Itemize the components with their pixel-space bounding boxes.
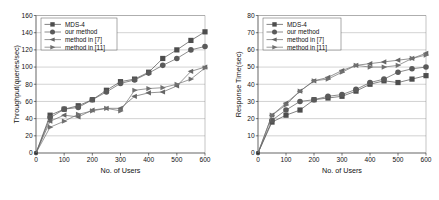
- series-3-marker-9: [381, 59, 387, 64]
- series-1-marker-12: [202, 29, 207, 34]
- series-4-marker-8: [146, 86, 152, 91]
- series-4-marker-11: [410, 56, 416, 61]
- series-2-marker-5: [104, 89, 110, 95]
- series-line-1: [258, 76, 426, 153]
- series-2-marker-12: [423, 64, 429, 70]
- ytick-label-0: 0: [29, 149, 33, 156]
- series-3: [258, 51, 428, 153]
- series-2-marker-5: [325, 93, 331, 99]
- xtick-label-200: 200: [308, 156, 319, 163]
- xtick-label-200: 200: [87, 156, 98, 163]
- series-2-marker-2: [283, 107, 289, 113]
- series-1-marker-12: [423, 73, 428, 78]
- series-2-marker-10: [174, 56, 180, 62]
- xtick-label-0: 0: [34, 156, 38, 163]
- series-4-marker-4: [312, 78, 318, 83]
- legend-label-1: MDS-4: [65, 21, 85, 28]
- xtick-label-100: 100: [59, 156, 70, 163]
- series-3-marker-2: [61, 113, 67, 118]
- series-2-marker-8: [146, 70, 152, 76]
- xtick-label-0: 0: [256, 156, 260, 163]
- series-line-2: [36, 46, 205, 153]
- series-2-marker-9: [160, 63, 166, 69]
- series-3-marker-11: [188, 69, 194, 74]
- legend: MDS-4our methodmethod in [7]method in [1…: [263, 18, 341, 52]
- y-axis-title: Throughput(queries/sec): [12, 45, 21, 123]
- series-2-marker-8: [367, 80, 373, 86]
- legend-label-2: our method: [65, 28, 98, 35]
- ytick-label-40: 40: [247, 81, 255, 88]
- ytick-label-140: 140: [22, 29, 33, 36]
- series-3-marker-9: [160, 89, 166, 94]
- series-2-marker-3: [75, 105, 81, 111]
- xtick-label-400: 400: [143, 156, 154, 163]
- xtick-label-500: 500: [392, 156, 403, 163]
- series-2-marker-10: [395, 69, 401, 75]
- ytick-label-50: 50: [247, 63, 255, 70]
- legend-marker-1: [50, 22, 54, 26]
- series-2-marker-3: [297, 99, 303, 105]
- xtick-label-500: 500: [171, 156, 182, 163]
- series-2-marker-9: [381, 76, 387, 82]
- legend: MDS-4our methodmethod in [7]method in [1…: [41, 18, 117, 52]
- ytick-label-160: 160: [22, 12, 33, 19]
- series-4-marker-1: [48, 125, 54, 130]
- series-2-marker-4: [90, 97, 96, 103]
- response-time-chart-svg: 010203040506070800100200300400500600No. …: [219, 0, 439, 200]
- ytick-label-20: 20: [247, 115, 255, 122]
- ytick-label-80: 80: [247, 12, 255, 19]
- series-group: [256, 51, 429, 155]
- series-4-marker-7: [132, 88, 138, 93]
- series-2-marker-12: [202, 44, 208, 50]
- series-1-marker-9: [160, 56, 165, 61]
- ytick-label-10: 10: [247, 132, 255, 139]
- legend-label-1: MDS-4: [287, 21, 307, 28]
- series-2-marker-6: [118, 81, 124, 87]
- series-4-marker-2: [62, 119, 68, 124]
- ytick-label-80: 80: [25, 81, 33, 88]
- series-2-marker-7: [353, 87, 359, 93]
- series-1-marker-10: [174, 47, 179, 52]
- ytick-label-60: 60: [25, 98, 33, 105]
- ytick-label-120: 120: [22, 46, 33, 53]
- y-axis-title: Response Time(sec): [234, 51, 243, 117]
- series-2: [258, 64, 429, 153]
- ytick-label-20: 20: [25, 132, 33, 139]
- series-4-marker-9: [160, 85, 166, 90]
- series-1-marker-2: [283, 113, 288, 118]
- xtick-label-600: 600: [199, 156, 210, 163]
- series-3-marker-10: [395, 58, 401, 63]
- series-4-marker-5: [104, 106, 110, 111]
- ytick-label-0: 0: [251, 149, 255, 156]
- series-2-marker-2: [61, 106, 67, 112]
- legend-marker-1: [272, 22, 276, 26]
- response-time-chart-panel: 010203040506070800100200300400500600No. …: [219, 0, 439, 200]
- legend-label-4: method in [11]: [65, 44, 105, 52]
- legend-label-2: our method: [287, 28, 320, 35]
- xtick-label-100: 100: [280, 156, 291, 163]
- series-2-marker-7: [132, 77, 138, 83]
- series-1-marker-3: [297, 107, 302, 112]
- xtick-label-400: 400: [364, 156, 375, 163]
- ytick-label-30: 30: [247, 98, 255, 105]
- throughput-chart-svg: 0204060801001201401600100200300400500600…: [0, 0, 219, 200]
- ytick-label-100: 100: [22, 63, 33, 70]
- series-1: [256, 73, 428, 155]
- series-2-marker-6: [339, 92, 345, 98]
- xtick-label-300: 300: [115, 156, 126, 163]
- ytick-label-40: 40: [25, 115, 33, 122]
- series-2: [36, 44, 208, 153]
- series-1-marker-10: [395, 80, 400, 85]
- xtick-label-600: 600: [420, 156, 431, 163]
- legend-marker-2: [50, 30, 55, 35]
- series-4-marker-9: [382, 64, 388, 69]
- series-2-marker-4: [311, 97, 317, 103]
- ytick-label-60: 60: [247, 46, 255, 53]
- legend-marker-2: [272, 30, 277, 35]
- series-2-marker-11: [409, 66, 415, 72]
- figure-container: 0204060801001201401600100200300400500600…: [0, 0, 439, 200]
- series-3-marker-8: [145, 90, 151, 95]
- series-1-marker-11: [409, 76, 414, 81]
- series-4: [258, 52, 429, 153]
- legend-label-4: method in [11]: [287, 44, 327, 52]
